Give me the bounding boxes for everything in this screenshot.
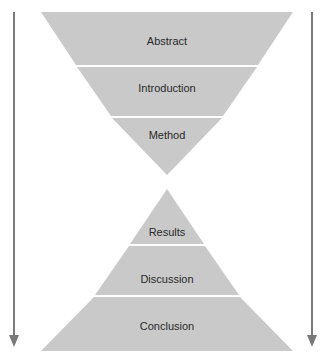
top-inverted-triangle: Abstract Introduction Method [41,12,293,175]
label-method: Method [149,129,186,141]
bottom-pyramid: Results Discussion Conclusion [41,189,293,351]
label-conclusion: Conclusion [140,320,194,332]
label-discussion: Discussion [140,273,193,285]
label-results: Results [149,226,186,238]
left-down-arrow [9,12,19,347]
right-down-arrow [307,12,317,347]
section-discussion [95,246,239,295]
section-method [112,118,222,175]
label-abstract: Abstract [147,35,187,47]
hourglass-diagram: Abstract Introduction Method Results Dis… [0,0,328,360]
label-introduction: Introduction [138,82,195,94]
